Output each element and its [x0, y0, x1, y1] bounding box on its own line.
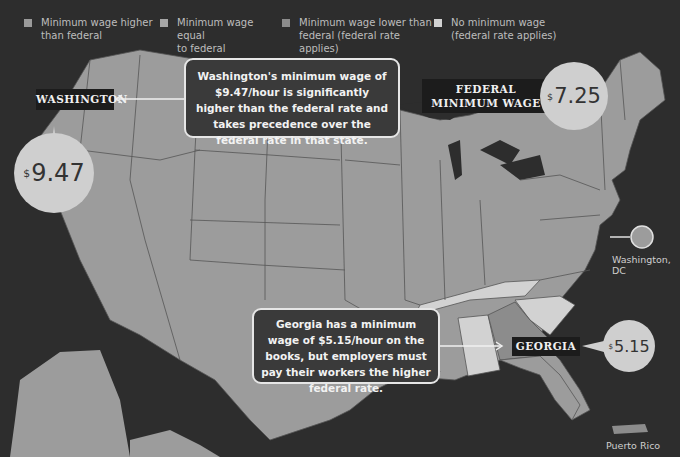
wage-value: 9.47 — [31, 159, 84, 187]
georgia-callout: Georgia has a minimum wage of $5.15/hour… — [252, 308, 440, 384]
georgia-tag: GEORGIA — [512, 337, 580, 356]
dc-label: Washington, DC — [612, 254, 680, 276]
wage-value: 7.25 — [554, 84, 601, 108]
legend-label: Minimum wage equal — [177, 17, 253, 41]
federal-wage-bubble: $7.25 — [540, 62, 608, 130]
legend-swatch — [434, 19, 442, 27]
dc-marker — [631, 226, 653, 248]
alaska-islands — [130, 430, 220, 457]
legend-swatch — [282, 19, 290, 27]
puerto-rico — [612, 424, 648, 434]
legend-label: to federal — [177, 43, 225, 54]
legend-item-equal: Minimum wage equalto federal — [160, 16, 282, 55]
legend-label: Minimum wage higher — [41, 17, 153, 28]
currency-symbol: $ — [547, 91, 553, 102]
legend-item-none: No minimum wage(federal rate applies) — [434, 16, 584, 55]
federal-tag: FEDERAL MINIMUM WAGE — [422, 79, 550, 113]
federal-tag-line1: FEDERAL — [456, 83, 516, 95]
legend-item-higher: Minimum wage higherthan federal — [24, 16, 160, 55]
washington-tag: WASHINGTON — [36, 89, 114, 110]
legend: Minimum wage higherthan federal Minimum … — [24, 16, 680, 55]
legend-swatch — [160, 19, 168, 27]
legend-label: than federal — [41, 30, 102, 41]
legend-label: (federal rate applies) — [451, 30, 556, 41]
federal-tag-line2: MINIMUM WAGE — [431, 97, 540, 109]
alaska — [10, 350, 130, 457]
legend-label: No minimum wage — [451, 17, 545, 28]
legend-label: Minimum wage lower than — [299, 17, 432, 28]
florida — [500, 356, 580, 420]
currency-symbol: $ — [23, 167, 30, 180]
washington-wage-bubble: $9.47 — [14, 133, 94, 213]
legend-label: federal (federal rate applies) — [299, 30, 400, 54]
wage-value: 5.15 — [614, 337, 650, 356]
legend-swatch — [24, 19, 32, 27]
georgia-wage-bubble: $5.15 — [603, 320, 655, 372]
legend-item-lower: Minimum wage lower thanfederal (federal … — [282, 16, 434, 55]
currency-symbol: $ — [608, 342, 613, 351]
puerto-rico-label: Puerto Rico — [606, 440, 660, 451]
washington-callout: Washington's minimum wage of $9.47/hour … — [184, 58, 400, 138]
